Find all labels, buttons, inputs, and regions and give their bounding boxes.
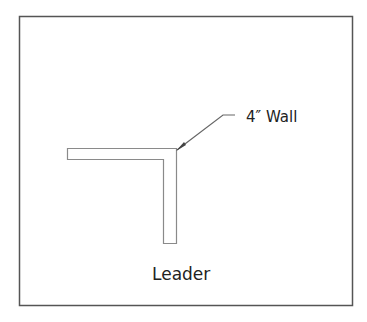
callout-label: 4″ Wall [246,108,297,126]
drawing-frame [20,17,353,306]
leader-diagram: 4″ Wall Leader [0,0,367,322]
diagram-caption: Leader [152,264,210,284]
